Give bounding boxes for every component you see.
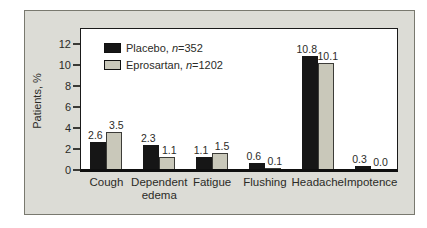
y-tick-mark [73, 148, 80, 150]
bar-eprosartan [318, 63, 334, 169]
y-tick-label: 10 [41, 59, 71, 71]
bar-value-label: 2.6 [88, 129, 103, 141]
y-tick-label: 4 [41, 122, 71, 134]
bar-placebo [143, 145, 159, 169]
y-tick-label: 2 [41, 143, 71, 155]
bar-value-label: 0.0 [373, 156, 388, 168]
chart-overlay: 0246810122.63.5Cough2.31.1Dependent edem… [0, 0, 427, 228]
bar-eprosartan [159, 157, 175, 169]
bar-placebo [355, 166, 371, 169]
y-tick-mark [73, 85, 80, 87]
y-tick-mark [73, 127, 80, 129]
y-tick-label: 12 [41, 38, 71, 50]
bar-value-label: 1.1 [162, 144, 177, 156]
bar-placebo [90, 142, 106, 169]
y-tick-mark [73, 106, 80, 108]
y-tick-label: 8 [41, 80, 71, 92]
bar-value-label: 0.6 [247, 150, 262, 162]
y-tick-mark [73, 43, 80, 45]
bar-placebo [249, 163, 265, 169]
bar-eprosartan [212, 153, 228, 169]
figure: Patients, % Placebo, n=352 Eprosartan, n… [0, 0, 427, 228]
y-tick-label: 6 [41, 101, 71, 113]
bar-value-label: 3.5 [109, 119, 124, 131]
y-tick-mark [73, 64, 80, 66]
y-tick-mark [73, 169, 80, 171]
bar-placebo [302, 56, 318, 169]
bar-value-label: 10.1 [318, 50, 338, 62]
bar-value-label: 1.1 [194, 144, 209, 156]
x-category-label: Impotence [328, 176, 414, 189]
bar-value-label: 1.5 [215, 140, 230, 152]
bar-value-label: 0.3 [352, 153, 367, 165]
bar-eprosartan [106, 132, 122, 169]
bar-value-label: 0.1 [268, 155, 283, 167]
y-tick-label: 0 [41, 164, 71, 176]
bar-value-label: 10.8 [297, 43, 317, 55]
bar-value-label: 2.3 [141, 132, 156, 144]
bar-placebo [196, 157, 212, 169]
bar-eprosartan [265, 168, 281, 169]
